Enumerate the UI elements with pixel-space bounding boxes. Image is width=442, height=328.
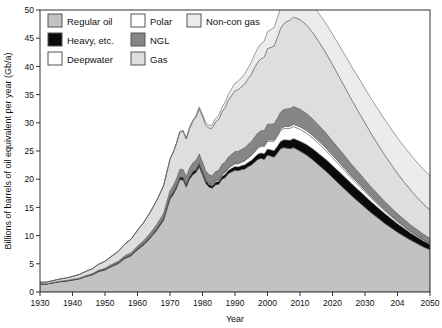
- x-tick-label: 204: [390, 298, 404, 308]
- legend-label: Heavy, etc.: [67, 35, 114, 46]
- y-tick-label: 50: [25, 5, 35, 15]
- legend-swatch: [48, 52, 62, 65]
- y-axis-title: Billions of barrels of oil equivalent pe…: [3, 52, 13, 249]
- legend-swatch: [131, 33, 145, 46]
- x-tick-label: 1940: [63, 298, 82, 308]
- legend-label: Regular oil: [67, 16, 112, 27]
- legend-label: NGL: [150, 35, 170, 46]
- x-tick-label: 1930: [31, 298, 50, 308]
- y-tick-label: 30: [25, 118, 35, 128]
- x-tick-label: 1960: [128, 298, 147, 308]
- y-tick-label: 25: [25, 146, 35, 156]
- legend-label: Gas: [150, 54, 168, 65]
- legend-label: Polar: [150, 16, 172, 27]
- legend-swatch: [131, 52, 145, 65]
- y-tick-label: 0: [29, 287, 34, 297]
- x-tick-label: 1950: [96, 298, 115, 308]
- x-tick-label: 1980: [193, 298, 212, 308]
- x-tick-label: 1990: [226, 298, 245, 308]
- y-tick-label: 40: [25, 62, 35, 72]
- legend-swatch: [131, 14, 145, 27]
- x-tick-label: 2020: [323, 298, 342, 308]
- legend-swatch: [48, 33, 62, 46]
- x-tick-label: 1970: [161, 298, 180, 308]
- x-tick-label: 2000: [258, 298, 277, 308]
- legend-swatch: [48, 14, 62, 27]
- y-tick-label: 15: [25, 203, 35, 213]
- x-tick-label: 2050: [421, 298, 440, 308]
- y-tick-label: 20: [25, 174, 35, 184]
- y-tick-label: 35: [25, 90, 35, 100]
- x-tick-label: 2030: [356, 298, 375, 308]
- legend-swatch: [187, 14, 201, 27]
- stacked-area-chart: 05101520253035404550 1930194019501960197…: [0, 0, 442, 328]
- y-tick-label: 45: [25, 33, 35, 43]
- legend-label: Non-con gas: [206, 16, 260, 27]
- x-tick-label: 2010: [291, 298, 310, 308]
- y-tick-label: 10: [25, 231, 35, 241]
- x-axis-title: Year: [226, 314, 244, 324]
- y-tick-label: 5: [29, 259, 34, 269]
- legend-label: Deepwater: [67, 54, 113, 65]
